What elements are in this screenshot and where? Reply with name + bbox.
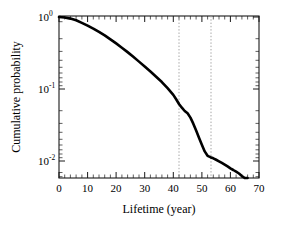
- x-tick-label: 20: [111, 182, 123, 194]
- y-axis-right-ticks: [253, 17, 259, 177]
- y-axis-title: Cumulative probability: [9, 41, 23, 153]
- x-tick-label: 70: [254, 182, 266, 194]
- y-tick-label-exponent: -2: [49, 153, 55, 162]
- x-tick-label: 0: [56, 182, 62, 194]
- x-tick-label: 30: [139, 182, 151, 194]
- y-tick-label-mantissa: 10: [38, 11, 50, 23]
- x-tick-labels: 0 10 20 30 40 50 60 70: [56, 182, 265, 194]
- x-axis-title: Lifetime (year): [123, 202, 196, 216]
- y-tick-label-group: 10 -2: [38, 153, 55, 168]
- x-tick-label: 50: [196, 182, 208, 194]
- x-tick-label: 40: [168, 182, 180, 194]
- y-tick-label-group: 10 -1: [38, 81, 55, 96]
- x-axis-top-ticks: [59, 16, 259, 22]
- data-curve: [59, 17, 248, 178]
- y-tick-label-mantissa: 10: [38, 155, 50, 167]
- chart-figure: 0 10 20 30 40 50 60 70 10 0 10 -1 10 -2: [0, 0, 283, 227]
- chart-svg: 0 10 20 30 40 50 60 70 10 0 10 -1 10 -2: [0, 0, 283, 227]
- y-tick-label-exponent: -1: [49, 81, 55, 90]
- x-tick-label: 10: [82, 182, 94, 194]
- y-tick-labels: 10 0 10 -1 10 -2: [38, 9, 55, 168]
- x-tick-label: 60: [225, 182, 237, 194]
- x-axis-major-ticks: [59, 172, 259, 178]
- y-tick-label-exponent: 0: [49, 9, 53, 18]
- plot-frame: [59, 16, 259, 178]
- y-tick-label-mantissa: 10: [38, 83, 50, 95]
- y-tick-label-group: 10 0: [38, 9, 53, 24]
